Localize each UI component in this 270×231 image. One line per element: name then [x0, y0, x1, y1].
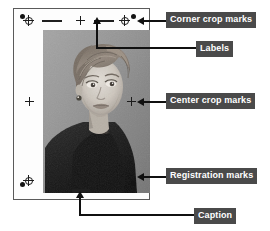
corner-dot-bottom-right: [131, 181, 136, 186]
corner-dot-top-right: [131, 14, 136, 19]
arrowhead-registration-marks: [137, 173, 144, 181]
callout-caption: Caption: [194, 208, 236, 224]
corner-crop-mark-top-right: [119, 15, 130, 26]
leader-labels-vertical: [96, 24, 98, 48]
label-bar-left: [42, 20, 62, 22]
arrowhead-corner-crop-marks: [137, 17, 144, 25]
center-crop-mark-bottom: [76, 178, 85, 187]
arrowhead-labels: [93, 17, 101, 24]
printed-sheet: [13, 8, 150, 200]
portrait-photograph-image: [43, 30, 150, 193]
arrowhead-caption: [76, 191, 84, 198]
callout-labels: Labels: [196, 41, 233, 57]
leader-caption-vertical: [79, 198, 81, 215]
callout-center-crop-marks: Center crop marks: [166, 93, 255, 109]
leader-labels-horizontal: [96, 47, 196, 49]
callout-registration-marks: Registration marks: [166, 168, 257, 184]
leader-caption-horizontal: [79, 214, 194, 216]
center-crop-mark-left: [25, 97, 34, 106]
center-crop-mark-top: [76, 16, 85, 25]
center-crop-mark-right: [127, 97, 136, 106]
portrait-photograph: [43, 30, 150, 193]
registration-mark-bottom-right: [119, 175, 130, 186]
arrowhead-center-crop-marks: [137, 98, 144, 106]
corner-dot-bottom-left: [20, 182, 25, 187]
corner-dot-top-left: [20, 14, 25, 19]
callout-corner-crop-marks: Corner crop marks: [166, 12, 256, 28]
figure-canvas: Corner crop marks Labels Center crop mar…: [0, 0, 270, 231]
